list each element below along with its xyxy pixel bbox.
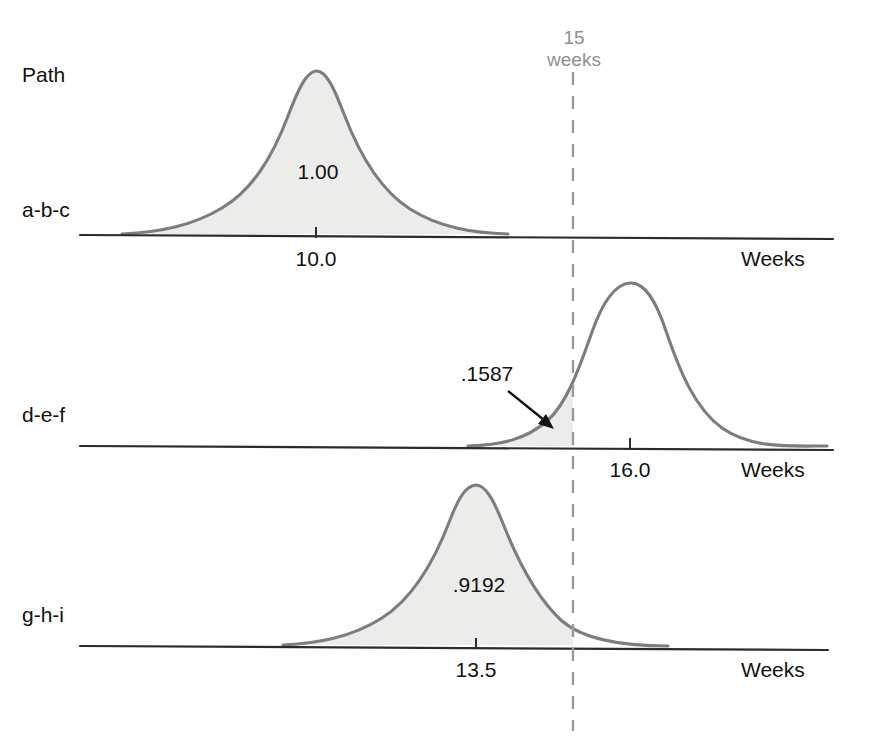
path-label-a-b-c: a-b-c <box>22 198 70 221</box>
tick-label-13-5: 13.5 <box>456 658 497 681</box>
axis-unit-label-a-b-c: Weeks <box>741 247 805 270</box>
axis-unit-label-g-h-i: Weeks <box>741 658 805 681</box>
axis-line-g-h-i <box>80 646 828 650</box>
path-header-label: Path <box>22 63 65 86</box>
tick-label-16: 16.0 <box>610 458 651 481</box>
curve-fill-a-b-c <box>122 71 508 234</box>
area-label-1587: .1587 <box>461 362 514 385</box>
axis-unit-label-d-e-f: Weeks <box>741 458 805 481</box>
area-label-9192: .9192 <box>453 573 506 596</box>
panel-g-h-i: 13.5 .9192 g-h-i Weeks <box>22 485 828 681</box>
axis-line-a-b-c <box>80 235 833 239</box>
curve-outline-d-e-f <box>468 283 827 446</box>
marker-label-value: 15 <box>563 27 584 48</box>
area-label-1-00: 1.00 <box>298 160 339 183</box>
panel-d-e-f: 16.0 .1587 d-e-f Weeks <box>22 283 833 481</box>
marker-label-unit: weeks <box>546 49 601 70</box>
axis-line-d-e-f <box>80 446 833 450</box>
tick-label-10: 10.0 <box>296 247 337 270</box>
probability-distribution-figure: 10.0 1.00 a-b-c Weeks 16.0 .1587 d-e-f W… <box>0 0 870 752</box>
panel-a-b-c: 10.0 1.00 a-b-c Weeks <box>22 71 833 270</box>
path-label-g-h-i: g-h-i <box>22 603 64 626</box>
path-label-d-e-f: d-e-f <box>22 403 65 426</box>
